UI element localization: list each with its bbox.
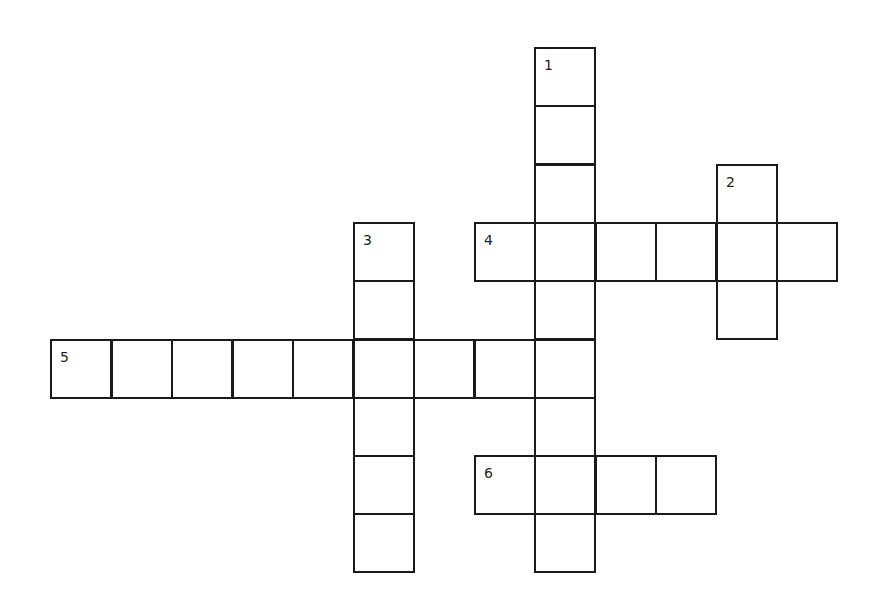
crossword-cell[interactable]	[776, 222, 838, 282]
crossword-cell[interactable]	[534, 513, 596, 573]
crossword-cell[interactable]	[232, 339, 294, 399]
crossword-cell[interactable]	[534, 280, 596, 340]
crossword-grid: 123456	[0, 0, 879, 609]
crossword-cell[interactable]	[716, 280, 778, 340]
crossword-cell[interactable]	[716, 222, 778, 282]
crossword-cell[interactable]: 4	[474, 222, 536, 282]
crossword-cell[interactable]	[534, 105, 596, 165]
crossword-cell[interactable]	[595, 222, 657, 282]
crossword-cell[interactable]: 5	[50, 339, 112, 399]
clue-number: 2	[726, 175, 735, 189]
crossword-cell[interactable]: 2	[716, 164, 778, 224]
clue-number: 6	[484, 466, 493, 480]
crossword-cell[interactable]: 6	[474, 455, 536, 515]
crossword-cell[interactable]	[353, 339, 415, 399]
crossword-cell[interactable]: 1	[534, 47, 596, 107]
crossword-cell[interactable]	[353, 280, 415, 340]
crossword-cell[interactable]	[595, 455, 657, 515]
crossword-cell[interactable]	[474, 339, 536, 399]
crossword-cell[interactable]	[171, 339, 233, 399]
crossword-cell[interactable]	[353, 513, 415, 573]
crossword-cell[interactable]	[534, 222, 596, 282]
clue-number: 4	[484, 233, 493, 247]
clue-number: 5	[60, 350, 69, 364]
crossword-cell[interactable]	[655, 455, 717, 515]
crossword-cell[interactable]: 3	[353, 222, 415, 282]
clue-number: 1	[544, 58, 553, 72]
crossword-cell[interactable]	[534, 339, 596, 399]
crossword-cell[interactable]	[655, 222, 717, 282]
crossword-cell[interactable]	[413, 339, 475, 399]
crossword-cell[interactable]	[292, 339, 354, 399]
crossword-cell[interactable]	[534, 164, 596, 224]
crossword-cell[interactable]	[534, 455, 596, 515]
clue-number: 3	[363, 233, 372, 247]
crossword-cell[interactable]	[534, 397, 596, 457]
crossword-cell[interactable]	[353, 455, 415, 515]
crossword-cell[interactable]	[111, 339, 173, 399]
crossword-cell[interactable]	[353, 397, 415, 457]
